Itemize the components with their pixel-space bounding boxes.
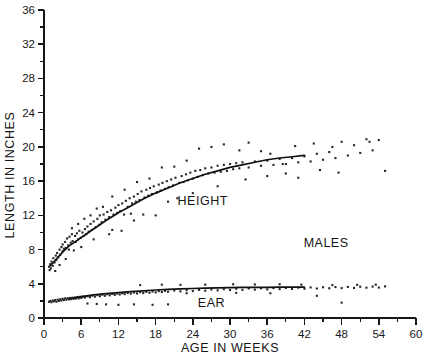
data-point [341,302,343,304]
x-tick-label: 42 [298,328,311,340]
y-tick-label: 12 [22,209,35,221]
data-point [245,178,247,180]
data-point [189,172,191,174]
y-tick-label: 4 [29,278,36,290]
data-point [198,148,200,150]
data-point [110,209,112,211]
data-point [142,292,144,294]
data-point [73,249,75,251]
data-point [378,139,380,141]
data-point [155,214,157,216]
x-tick-label: 12 [112,328,125,340]
data-point [217,185,219,187]
data-point [136,181,138,183]
data-point [148,292,150,294]
data-point [94,296,96,298]
y-axis-title: LENGTH IN INCHES [3,112,17,239]
data-point [232,168,234,170]
data-point [71,227,73,229]
data-point [316,153,318,155]
data-point [130,293,132,295]
data-point [71,233,73,235]
data-point [375,284,377,286]
data-point [65,258,67,260]
data-point [300,284,302,286]
data-point [186,292,188,294]
data-point [90,223,92,225]
data-point [52,265,54,267]
data-point [84,228,86,230]
data-point [121,202,123,204]
data-point [248,142,250,144]
data-point [121,230,123,232]
data-point [68,249,70,251]
data-point [109,294,111,296]
data-point [173,166,175,168]
data-point [96,207,98,209]
data-point [124,293,126,295]
data-point [52,257,54,259]
data-point [179,284,181,286]
data-point [266,288,268,290]
data-point [232,283,234,285]
data-point [83,218,85,220]
data-point [229,289,231,291]
data-point [81,231,83,233]
data-point [111,229,113,231]
y-axis-title-group: LENGTH IN INCHES [3,112,17,239]
data-point [199,169,201,171]
data-point [269,292,271,294]
data-point [136,292,138,294]
data-point [331,284,333,286]
data-point [137,193,139,195]
data-point [62,243,64,245]
annotation-height: HEIGHT [178,194,228,208]
data-point [322,159,324,161]
y-tick-label: 32 [22,38,35,50]
data-point [285,172,287,174]
data-point [254,289,256,291]
data-point [105,303,107,305]
data-point [338,172,340,174]
data-point [186,160,188,162]
data-point [210,146,212,148]
data-point [384,285,386,287]
data-point [303,288,305,290]
data-point [59,249,61,251]
data-point [93,220,95,222]
data-point [78,230,80,232]
data-point [365,138,367,140]
data-point [161,166,163,168]
data-point [294,145,296,147]
y-tick-label: 16 [22,175,35,187]
data-point [238,167,240,169]
data-point [282,163,284,165]
data-point [117,204,119,206]
annotation-ear: EAR [198,296,225,310]
data-point [161,182,163,184]
data-point [174,177,176,179]
data-point [365,287,367,289]
data-point [155,291,157,293]
data-point [80,246,82,248]
data-point [372,286,374,288]
data-point [139,284,141,286]
data-point [104,295,106,297]
y-tick-label: 28 [22,72,35,84]
data-point [117,304,119,306]
data-point [185,173,187,175]
data-point [334,286,336,288]
data-point [223,143,225,145]
data-point [279,283,281,285]
data-point [241,289,243,291]
x-tick-label: 48 [335,328,348,340]
data-point [297,177,299,179]
x-tick-label: 24 [186,328,199,340]
data-point [181,175,183,177]
data-point [272,164,274,166]
data-point [210,166,212,168]
data-point [313,142,315,144]
data-point [66,237,68,239]
data-point [166,180,168,182]
y-tick-label: 24 [22,107,35,119]
